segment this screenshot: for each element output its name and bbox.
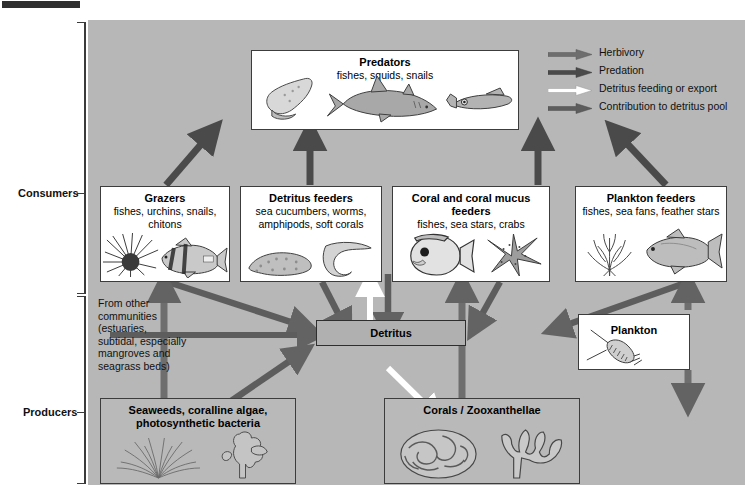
- box-seaweeds-title-line1: Seaweeds, coralline algae,: [101, 404, 295, 417]
- consumers-bracket-tick-top: [77, 22, 85, 23]
- diagram-root: Consumers Producers: [0, 0, 753, 493]
- box-plankton-feeders-title: Plankton feeders: [576, 192, 726, 205]
- producers-bracket-tick-top: [77, 296, 85, 297]
- note-line-5: mangroves and: [98, 347, 190, 360]
- box-plankton-feeders[interactable]: Plankton feeders fishes, sea fans, feath…: [575, 186, 727, 282]
- detritus-feeders-illustration: [241, 238, 381, 278]
- note-line-1: From other: [98, 297, 190, 310]
- box-corals[interactable]: Corals / Zooxanthellae: [384, 398, 580, 484]
- arrow-planktonfeeders-to-predators: [618, 134, 666, 185]
- producers-bracket-tick-mid: [77, 412, 85, 413]
- box-grazers-subtitle: fishes, urchins, snails, chitons: [101, 205, 229, 230]
- note-line-6: seagrass beds): [98, 360, 190, 373]
- legend-label-herbivory: Herbivory: [599, 46, 644, 58]
- box-grazers-title: Grazers: [101, 192, 229, 205]
- box-seaweeds[interactable]: Seaweeds, coralline algae, photosyntheti…: [100, 398, 296, 484]
- consumers-bracket-rail: [84, 22, 86, 294]
- legend-item-predation: Predation: [548, 62, 748, 77]
- legend-item-detritus-pool: Contribution to detritus pool: [548, 98, 748, 113]
- corals-illustration: [385, 422, 579, 480]
- box-detritus-feeders-subtitle: sea cucumbers, worms, amphipods, soft co…: [241, 205, 381, 230]
- consumers-label: Consumers: [18, 187, 79, 199]
- arrow-right-icon: [548, 46, 592, 57]
- box-detritus-feeders-title: Detritus feeders: [241, 192, 381, 205]
- diagram-canvas: Predators fishes, squids, snails: [88, 20, 745, 485]
- arrow-right-icon: [548, 64, 592, 75]
- legend-label-detritus-feeding: Detritus feeding or export: [599, 82, 717, 94]
- consumers-bracket-tick-bottom: [77, 293, 85, 294]
- box-detritus[interactable]: Detritus: [316, 320, 466, 346]
- grazers-illustration: [101, 232, 229, 278]
- legend-item-herbivory: Herbivory: [548, 44, 748, 59]
- plankton-feeders-illustration: [576, 226, 726, 278]
- producers-label: Producers: [23, 406, 77, 418]
- coral-feeders-illustration: [393, 232, 549, 278]
- arrow-right-icon: [548, 100, 592, 111]
- box-plankton-feeders-subtitle: fishes, sea fans, feather stars: [576, 205, 726, 218]
- box-grazers[interactable]: Grazers fishes, urchins, snails, chitons: [100, 186, 230, 282]
- note-line-4: subtidal, especially: [98, 335, 190, 348]
- legend-item-detritus-feeding: Detritus feeding or export: [548, 80, 748, 95]
- note-line-3: (estuaries,: [98, 322, 190, 335]
- arrow-coralfeeders-to-detritus: [476, 282, 500, 325]
- box-coral-feeders-subtitle: fishes, sea stars, crabs: [393, 218, 549, 231]
- producers-bracket-rail: [84, 296, 86, 484]
- arrow-detritusfeeders-to-detritus: [322, 282, 344, 325]
- box-detritus-feeders[interactable]: Detritus feeders sea cucumbers, worms, a…: [240, 186, 382, 282]
- box-coral-feeders-title: Coral and coral mucus feeders: [393, 192, 549, 218]
- seaweeds-illustration: [101, 430, 295, 480]
- legend-label-detritus-pool: Contribution to detritus pool: [599, 100, 727, 112]
- top-left-artifact: [2, 1, 80, 8]
- predators-illustration: [252, 68, 518, 126]
- box-detritus-title: Detritus: [370, 327, 412, 340]
- box-seaweeds-title-line2: photosynthetic bacteria: [101, 417, 295, 430]
- legend-label-predation: Predation: [599, 64, 644, 76]
- box-plankton[interactable]: Plankton: [578, 314, 690, 370]
- box-coral-feeders[interactable]: Coral and coral mucus feeders fishes, se…: [392, 186, 550, 282]
- box-predators[interactable]: Predators fishes, squids, snails: [251, 50, 519, 130]
- arrow-grazers-to-predators: [166, 134, 210, 185]
- note-from-other-communities: From other communities (estuaries, subti…: [98, 297, 190, 373]
- box-corals-title: Corals / Zooxanthellae: [385, 404, 579, 417]
- producers-bracket-tick-bottom: [77, 483, 85, 484]
- arrow-right-icon: [548, 82, 592, 93]
- legend: Herbivory Predation Detritus feeding or …: [548, 44, 748, 116]
- note-line-2: communities: [98, 310, 190, 323]
- plankton-illustration: [579, 328, 689, 368]
